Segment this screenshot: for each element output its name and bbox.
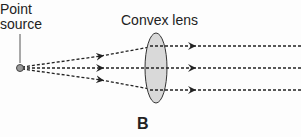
incident-rays <box>22 47 150 89</box>
refracted-rays <box>146 46 301 90</box>
point-source <box>17 65 24 72</box>
optics-diagram <box>0 0 301 137</box>
